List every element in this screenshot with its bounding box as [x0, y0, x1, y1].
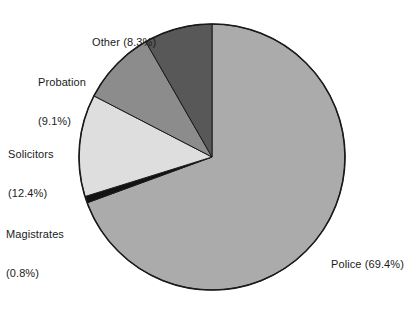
slice-label-other-line1: Other (8.3%) — [92, 36, 156, 49]
slice-label-solicitors-line2: (12.4%) — [8, 187, 54, 200]
slice-label-magistrates: Magistrates (0.8%) — [6, 202, 64, 306]
slice-label-police-line1: Police (69.4%) — [331, 258, 404, 271]
pie-chart: Other (8.3%) Probation (9.1%) Solicitors… — [0, 0, 408, 313]
slice-label-solicitors-line1: Solicitors — [8, 148, 54, 161]
slice-label-police: Police (69.4%) — [331, 232, 404, 297]
slice-label-other: Other (8.3%) — [92, 10, 156, 75]
slice-label-probation-line1: Probation — [38, 76, 86, 89]
slice-label-magistrates-line2: (0.8%) — [6, 267, 64, 280]
slice-label-magistrates-line1: Magistrates — [6, 228, 64, 241]
